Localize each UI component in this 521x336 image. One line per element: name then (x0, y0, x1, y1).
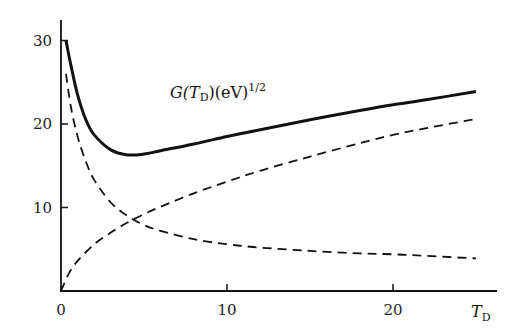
x-axis-label: TD (471, 302, 491, 324)
series-line-2 (61, 119, 476, 291)
chart-svg: 01020102030 G(TD)(eV)1/2 TD (0, 0, 521, 336)
series-group (61, 41, 476, 292)
series-line-0 (66, 41, 476, 156)
tick-labels: 01020102030 (33, 32, 403, 320)
x-tick-label: 20 (383, 301, 402, 319)
x-tick-label: 0 (56, 301, 66, 319)
y-tick-label: 10 (33, 199, 52, 217)
curve-label-g: G(TD)(eV)1/2 (170, 81, 266, 104)
y-tick-label: 20 (33, 115, 52, 133)
y-tick-label: 30 (33, 32, 52, 50)
x-tick-label: 10 (217, 301, 236, 319)
